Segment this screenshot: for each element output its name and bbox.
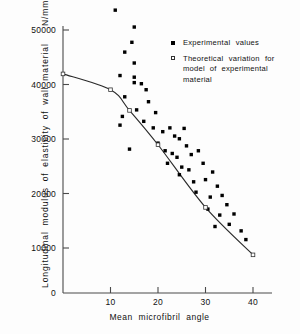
data-point-marker — [166, 162, 169, 165]
theoretical-curve — [63, 74, 253, 255]
data-point-marker — [228, 223, 231, 226]
data-point-marker — [192, 180, 195, 183]
data-point-marker — [130, 41, 133, 44]
y-axis-ticks — [63, 30, 69, 248]
data-point-marker — [175, 156, 178, 159]
data-point-marker — [133, 75, 136, 78]
legend-item-experimental: Experimental values — [171, 38, 297, 49]
data-point-marker — [144, 88, 147, 91]
data-point-marker — [123, 50, 126, 53]
theoretical-point-marker — [156, 143, 160, 147]
y-axis-title-text: Longitudinal modulus of elasticity of wa… — [40, 43, 50, 288]
data-point-marker — [133, 81, 136, 84]
data-point-marker — [123, 95, 126, 98]
data-point-marker — [171, 152, 174, 155]
data-point-marker — [142, 120, 145, 123]
data-point-marker — [163, 149, 166, 152]
data-point-marker — [135, 108, 138, 111]
x-axis-ticks — [111, 287, 254, 293]
open-square-icon — [171, 56, 175, 60]
data-point-marker — [154, 111, 157, 114]
data-point-marker — [201, 162, 204, 165]
data-point-marker — [209, 195, 212, 198]
data-point-marker — [133, 25, 136, 28]
y-axis-units: N/mm — [40, 0, 50, 26]
data-point-marker — [118, 74, 121, 77]
theoretical-point-marker — [61, 72, 65, 76]
data-point-marker — [118, 123, 121, 126]
y-tick-label-0: 0 — [8, 288, 56, 298]
data-point-marker — [178, 173, 181, 176]
data-point-marker — [232, 212, 235, 215]
data-point-marker — [190, 153, 193, 156]
legend-label-theoretical-line1: Theoretical variation for — [183, 54, 297, 65]
theoretical-point-marker — [128, 109, 132, 113]
data-point-marker — [197, 149, 200, 152]
data-point-marker — [216, 184, 219, 187]
x-tick-label-20: 20 — [146, 297, 171, 307]
data-point-marker — [187, 168, 190, 171]
data-point-marker — [161, 130, 164, 133]
theoretical-point-marker — [251, 253, 255, 257]
data-point-marker — [239, 229, 242, 232]
data-point-marker — [152, 126, 155, 129]
data-point-marker — [147, 100, 150, 103]
data-point-marker — [220, 194, 223, 197]
data-point-marker — [244, 238, 247, 241]
data-point-marker — [180, 165, 183, 168]
data-point-marker — [133, 61, 136, 64]
data-point-marker — [182, 127, 185, 130]
data-point-marker — [204, 178, 207, 181]
legend-label-theoretical-line2: model of experimental — [183, 64, 297, 75]
data-point-marker — [218, 213, 221, 216]
legend-label-theoretical-line3: material — [183, 75, 297, 86]
x-tick-label-30: 30 — [193, 297, 218, 307]
theoretical-point-marker — [204, 206, 208, 210]
y-axis-title: Longitudinal modulus of elasticity of wa… — [38, 28, 50, 288]
data-point-marker — [194, 190, 197, 193]
filled-square-icon — [171, 41, 175, 45]
chart-legend: Experimental values Theoretical variatio… — [171, 38, 297, 90]
theoretical-point-marker — [109, 88, 113, 92]
legend-label-experimental: Experimental values — [183, 38, 297, 49]
data-point-marker — [211, 170, 214, 173]
legend-item-theoretical: Theoretical variation for model of exper… — [171, 54, 297, 86]
chart-figure: 50000 40000 30000 20000 10000 0 10 20 30… — [0, 0, 300, 334]
data-point-marker — [140, 82, 143, 85]
x-tick-label-40: 40 — [241, 297, 266, 307]
data-point-marker — [213, 225, 216, 228]
data-point-marker — [128, 147, 131, 150]
data-point-marker — [114, 8, 117, 11]
x-axis-title: Mean microfibril angle — [62, 312, 257, 322]
x-tick-label-10: 10 — [98, 297, 123, 307]
data-point-marker — [178, 137, 181, 140]
data-point-marker — [185, 144, 188, 147]
data-point-marker — [121, 115, 124, 118]
data-point-marker — [168, 126, 171, 129]
data-point-marker — [225, 203, 228, 206]
data-point-marker — [173, 134, 176, 137]
